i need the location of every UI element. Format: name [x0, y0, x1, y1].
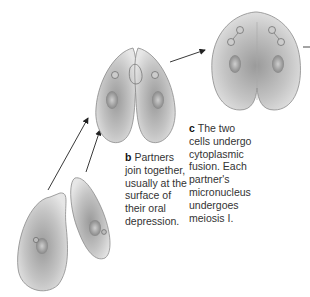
cells-stage-b [96, 48, 175, 143]
cells-stage-a [18, 178, 110, 291]
diagram-artwork [0, 0, 310, 297]
step-letter-c: c [189, 122, 195, 134]
caption-step-b: bPartners join together, usually at the … [125, 151, 187, 228]
conjugation-diagram: bPartners join together, usually at the … [0, 0, 310, 297]
caption-step-c: cThe two cells undergo cytoplasmic fusio… [189, 122, 251, 224]
arrow-a-to-b-right [86, 130, 100, 172]
step-letter-b: b [125, 151, 131, 163]
cells-stage-c [212, 12, 301, 110]
arrow-b-to-c [170, 50, 205, 62]
